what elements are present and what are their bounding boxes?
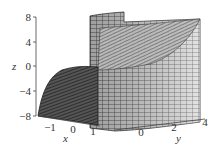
y-axis-label: y <box>175 132 181 144</box>
x-axis-label: x <box>62 132 68 144</box>
light-grid-surface <box>90 12 200 131</box>
z-tick-label: 4 <box>26 36 32 48</box>
z-axis: 8 4 0 −4 −8 z <box>11 11 36 122</box>
y-tick-label: 0 <box>138 126 144 138</box>
dark-hatched-surface <box>38 66 98 125</box>
x-tick-label: 1 <box>90 125 96 137</box>
z-tick-label: 0 <box>26 60 32 72</box>
z-axis-label: z <box>11 60 17 72</box>
z-tick-label: −4 <box>19 85 31 97</box>
x-tick-label: −1 <box>44 121 56 133</box>
z-tick-label: 8 <box>26 11 32 23</box>
y-tick-label: 4 <box>202 116 208 128</box>
x-tick-label: 0 <box>70 123 76 135</box>
z-tick-label: −8 <box>19 110 31 122</box>
surface-plot: 8 4 0 −4 −8 z −1 0 1 x 0 2 4 y <box>0 0 218 150</box>
